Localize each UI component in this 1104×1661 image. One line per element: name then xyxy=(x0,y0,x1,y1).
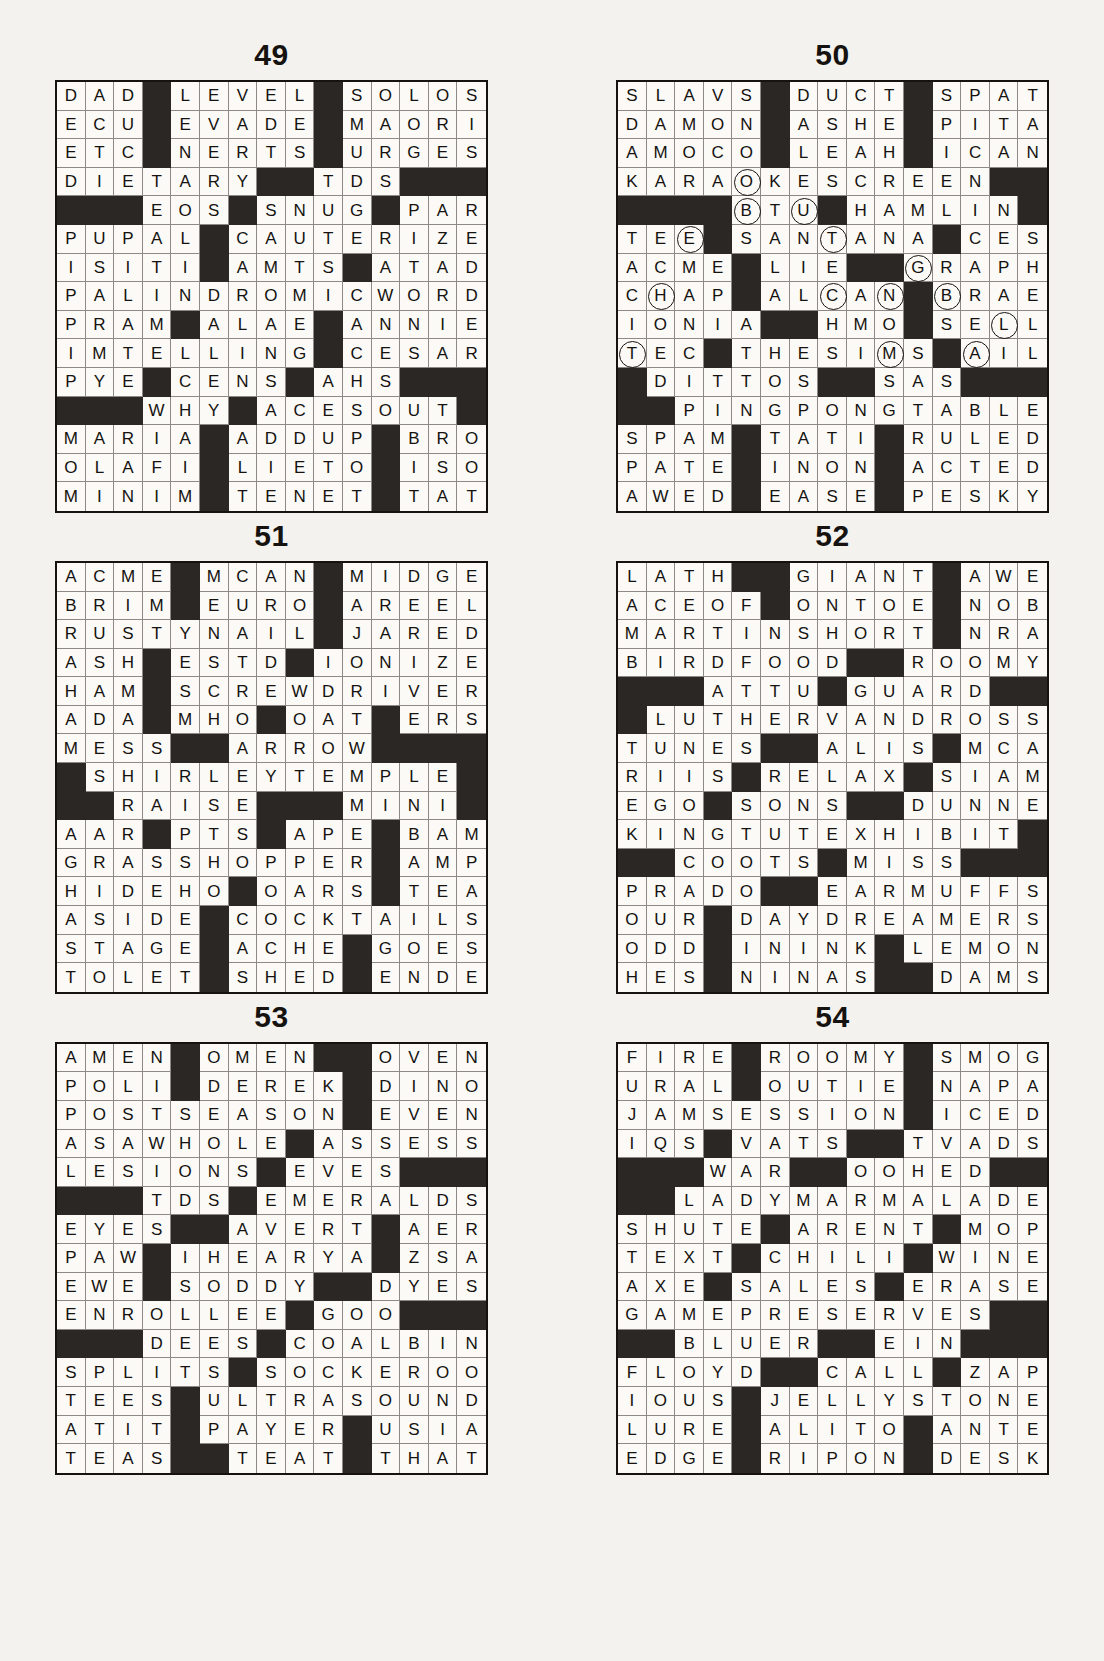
grid-block-cell xyxy=(847,792,876,821)
cell-letter: O xyxy=(379,1306,392,1323)
grid-letter-cell: M xyxy=(171,482,200,511)
grid-letter-cell: S xyxy=(429,454,458,483)
grid-letter-cell: O xyxy=(143,1301,172,1330)
cell-letter: R xyxy=(826,1221,838,1238)
cell-letter: W xyxy=(652,488,668,505)
cell-letter: S xyxy=(65,940,76,957)
grid-block-cell xyxy=(200,906,229,935)
cell-letter: T xyxy=(627,740,637,757)
grid-letter-cell: D xyxy=(372,1072,401,1101)
cell-letter: T xyxy=(827,230,837,247)
cell-letter: L xyxy=(295,87,304,104)
cell-letter: T xyxy=(237,488,247,505)
grid-letter-cell: A xyxy=(171,168,200,197)
grid-letter-cell: J xyxy=(343,620,372,649)
cell-letter: A xyxy=(180,173,191,190)
crossword-grid-54[interactable]: FIREROOMYSMOGURALOUTIENAPAJAMSESSIONICED… xyxy=(616,1042,1049,1475)
cell-letter: C xyxy=(122,144,134,161)
grid-letter-cell: C xyxy=(847,82,876,111)
cell-letter: L xyxy=(856,1392,865,1409)
cell-letter: T xyxy=(712,1221,722,1238)
grid-letter-cell: L xyxy=(790,1416,819,1445)
cell-letter: N xyxy=(769,940,781,957)
cell-letter: M xyxy=(625,625,639,642)
cell-letter: O xyxy=(322,740,335,757)
grid-letter-cell: R xyxy=(875,877,904,906)
cell-letter: E xyxy=(180,654,191,671)
cell-letter: A xyxy=(380,911,391,928)
grid-block-cell xyxy=(904,1044,933,1073)
grid-letter-cell: I xyxy=(618,1387,647,1416)
cell-letter: L xyxy=(942,1192,951,1209)
grid-letter-cell: D xyxy=(647,1444,676,1473)
cell-letter: W xyxy=(91,1278,107,1295)
cell-letter: A xyxy=(655,173,666,190)
grid-letter-cell: O xyxy=(314,1330,343,1359)
cell-letter: T xyxy=(827,1078,837,1095)
grid-letter-cell: G xyxy=(143,935,172,964)
grid-letter-cell: A xyxy=(761,225,790,254)
crossword-grid-51[interactable]: ACMEMCANMIDGEBRIMEUROAREELRUSTYNAILJARED… xyxy=(55,561,488,994)
cell-letter: S xyxy=(626,430,637,447)
cell-letter: A xyxy=(912,373,923,390)
cell-letter: M xyxy=(350,116,364,133)
grid-block-cell xyxy=(343,1072,372,1101)
cell-letter: S xyxy=(466,911,477,928)
grid-letter-cell: U xyxy=(314,425,343,454)
grid-letter-cell: E xyxy=(286,1158,315,1187)
grid-letter-cell: E xyxy=(1018,282,1047,311)
cell-letter: A xyxy=(969,568,980,585)
crossword-grid-50[interactable]: SLAVSDUCTSPATDAMONASHEPITAAMOCOLEAHICANK… xyxy=(616,80,1049,513)
cell-letter: A xyxy=(65,1421,76,1438)
cell-letter: S xyxy=(351,883,362,900)
crossword-grid-53[interactable]: AMENOMENOVENPOLIDEREKDINOPOSTSEASONEVENA… xyxy=(55,1042,488,1475)
grid-letter-cell: T xyxy=(704,368,733,397)
grid-letter-cell: E xyxy=(286,1072,315,1101)
grid-block-cell xyxy=(1018,1158,1047,1187)
grid-letter-cell: I xyxy=(847,339,876,368)
grid-letter-cell: R xyxy=(229,139,258,168)
grid-letter-cell: I xyxy=(143,1072,172,1101)
grid-block-cell xyxy=(933,225,962,254)
cell-letter: E xyxy=(380,969,391,986)
grid-letter-cell: N xyxy=(732,963,761,992)
grid-letter-cell: S xyxy=(86,254,115,283)
cell-letter: T xyxy=(123,345,133,362)
cell-letter: A xyxy=(626,1278,637,1295)
grid-block-cell xyxy=(761,1358,790,1387)
cell-letter: T xyxy=(409,488,419,505)
grid-letter-cell: A xyxy=(732,1158,761,1187)
grid-letter-cell: L xyxy=(790,139,819,168)
grid-letter-cell: I xyxy=(457,111,486,140)
cell-letter: M xyxy=(149,316,163,333)
cell-letter: E xyxy=(322,940,333,957)
grid-block-cell xyxy=(143,677,172,706)
cell-letter: M xyxy=(235,1049,249,1066)
grid-letter-cell: C xyxy=(314,1358,343,1387)
grid-letter-cell: L xyxy=(847,734,876,763)
cell-letter: T xyxy=(913,402,923,419)
cell-letter: T xyxy=(627,230,637,247)
grid-letter-cell: L xyxy=(904,935,933,964)
grid-block-cell xyxy=(875,963,904,992)
cell-letter: E xyxy=(294,116,305,133)
cell-letter: Y xyxy=(884,1392,895,1409)
cell-letter: O xyxy=(93,1106,106,1123)
crossword-grid-52[interactable]: LATHGIANTAWEACEOFONTOENOBMARTINSHORTNRAB… xyxy=(616,561,1049,994)
cell-letter: B xyxy=(408,826,419,843)
cell-letter: P xyxy=(322,826,333,843)
grid-letter-cell: A xyxy=(990,139,1019,168)
grid-letter-cell: O xyxy=(343,454,372,483)
cell-letter: D xyxy=(465,259,477,276)
cell-letter: C xyxy=(969,230,981,247)
cell-letter: E xyxy=(655,969,666,986)
crossword-grid-49[interactable]: DADLEVELSOLOSECUEVADEMAORIETCNERTSURGESD… xyxy=(55,80,488,513)
cell-letter: A xyxy=(912,230,923,247)
cell-letter: E xyxy=(798,1306,809,1323)
cell-letter: S xyxy=(237,1335,248,1352)
cell-letter: S xyxy=(94,768,105,785)
cell-letter: N xyxy=(883,711,895,728)
cell-letter: S xyxy=(798,1106,809,1123)
grid-letter-cell: T xyxy=(143,1416,172,1445)
cell-letter: M xyxy=(968,1049,982,1066)
